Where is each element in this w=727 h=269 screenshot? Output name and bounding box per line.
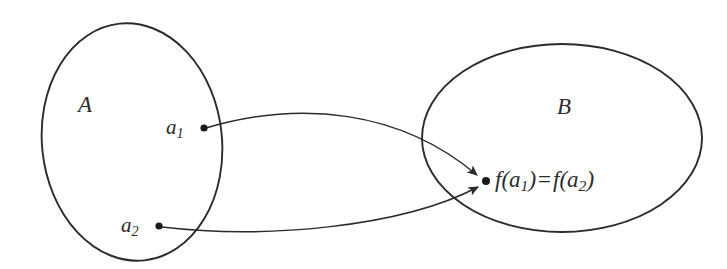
point-a2-label-subscript: 2 bbox=[132, 223, 139, 239]
image-label-equals: = bbox=[536, 167, 553, 192]
point-a1-dot bbox=[200, 124, 207, 131]
point-a1-label-subscript: 1 bbox=[177, 125, 184, 141]
codomain-set-ellipse bbox=[422, 44, 702, 232]
point-image-dot bbox=[482, 177, 490, 185]
point-a2-label: a2 bbox=[121, 213, 139, 240]
image-label-arg2: a bbox=[567, 167, 579, 192]
image-label-arg1: a bbox=[509, 167, 521, 192]
diagram-svg bbox=[0, 0, 727, 269]
image-label-close-paren-1: ) bbox=[528, 167, 536, 192]
point-a2-dot bbox=[155, 222, 162, 229]
domain-set-label: A bbox=[78, 92, 92, 118]
image-label-open-paren-2: ( bbox=[559, 167, 567, 192]
figure-canvas: A B a1 a2 f(a1)=f(a2) bbox=[0, 0, 727, 269]
codomain-set-label: B bbox=[557, 94, 571, 120]
image-point-label: f(a1)=f(a2) bbox=[495, 167, 594, 195]
mapping-arrow-a1 bbox=[206, 113, 477, 175]
image-label-open-paren-1: ( bbox=[501, 167, 509, 192]
point-a1-label-base: a bbox=[166, 115, 177, 139]
point-a2-label-base: a bbox=[121, 213, 132, 237]
image-label-close-paren-2: ) bbox=[586, 167, 594, 192]
point-a1-label: a1 bbox=[166, 115, 184, 142]
